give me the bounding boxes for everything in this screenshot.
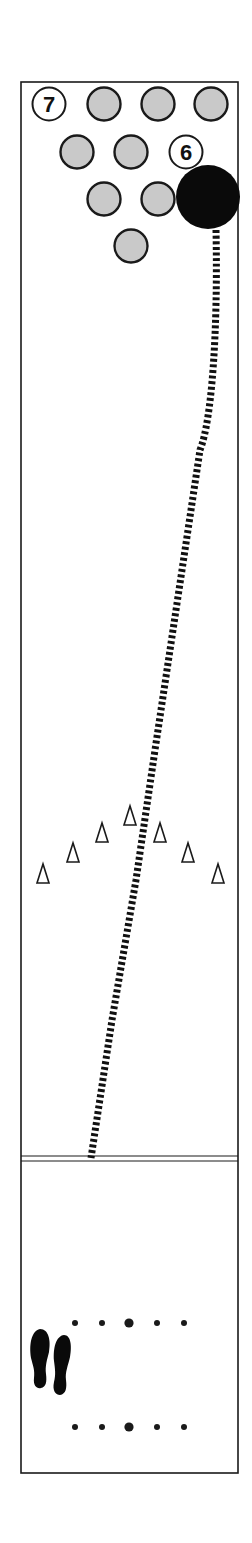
pin-7: 7 bbox=[33, 88, 66, 121]
right-footprint-icon bbox=[53, 1335, 70, 1395]
approach-dot bbox=[99, 1320, 105, 1326]
approach-dots bbox=[72, 1318, 187, 1431]
target-arrow-icon bbox=[154, 823, 166, 842]
pin-number-label: 6 bbox=[180, 140, 192, 165]
pin-4 bbox=[61, 136, 94, 169]
pin-number-label: 7 bbox=[43, 92, 55, 117]
pin-5 bbox=[115, 136, 148, 169]
pin-9 bbox=[142, 88, 175, 121]
left-footprint-icon bbox=[30, 1329, 49, 1388]
pin-8 bbox=[88, 88, 121, 121]
pin-6: 6 bbox=[170, 136, 203, 169]
footprints bbox=[30, 1329, 71, 1395]
approach-dot bbox=[124, 1318, 133, 1327]
pin-3 bbox=[142, 183, 175, 216]
target-arrows bbox=[37, 806, 224, 883]
target-arrow-icon bbox=[212, 864, 224, 883]
pin-2 bbox=[88, 183, 121, 216]
lane-outline bbox=[21, 82, 238, 1473]
target-arrow-icon bbox=[182, 843, 194, 862]
foul-line bbox=[21, 1156, 238, 1161]
bowling-lane-diagram: 76 bbox=[0, 0, 252, 1543]
approach-dot bbox=[154, 1320, 160, 1326]
approach-dot bbox=[99, 1424, 105, 1430]
pin-1 bbox=[115, 230, 148, 263]
target-arrow-icon bbox=[67, 843, 79, 862]
approach-dot bbox=[154, 1424, 160, 1430]
bowling-ball bbox=[176, 165, 240, 229]
approach-dot bbox=[72, 1320, 78, 1326]
target-arrow-icon bbox=[124, 806, 136, 825]
target-arrow-icon bbox=[96, 823, 108, 842]
pin-10 bbox=[195, 88, 228, 121]
approach-dot bbox=[124, 1422, 133, 1431]
target-arrow-icon bbox=[37, 864, 49, 883]
approach-dot bbox=[181, 1424, 187, 1430]
approach-dot bbox=[72, 1424, 78, 1430]
ball-path bbox=[91, 230, 216, 1158]
approach-dot bbox=[181, 1320, 187, 1326]
